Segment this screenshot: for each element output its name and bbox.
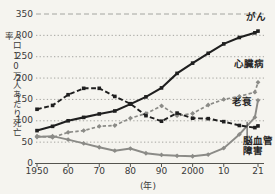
data-point-cerebrovascular-disease — [175, 111, 179, 115]
x-tick-label: 21 — [242, 167, 274, 176]
data-point-cerebrovascular-disease — [35, 107, 39, 111]
data-point-heart-disease — [221, 97, 226, 102]
x-tick-label: 10 — [208, 167, 240, 176]
data-point-cerebrovascular-disease — [253, 126, 257, 130]
data-point-cancer — [191, 61, 195, 65]
data-point-senility — [256, 98, 261, 103]
data-point-cerebrovascular-disease — [82, 87, 86, 91]
data-point-heart-disease — [81, 128, 86, 133]
x-axis-title: (年) — [132, 179, 164, 192]
series-label-senility: 老衰 — [232, 97, 252, 107]
y-tick-label: 150 — [6, 95, 33, 104]
data-point-senility — [175, 153, 180, 158]
data-point-senility — [128, 146, 133, 151]
data-point-heart-disease — [128, 116, 133, 121]
data-point-cancer — [113, 109, 117, 113]
data-point-heart-disease — [256, 80, 261, 85]
data-point-cancer — [35, 129, 39, 133]
death-rate-line-chart: 人口10万人あたり死亡率 (年) がん 心臓病 老衰 脳血管 障害 050100… — [0, 0, 275, 194]
data-point-cancer — [238, 36, 242, 40]
x-tick-label: 1950 — [21, 167, 53, 176]
data-point-cancer — [129, 102, 133, 106]
data-point-cancer — [222, 42, 226, 46]
data-point-senility — [190, 154, 195, 159]
data-point-cancer — [253, 31, 257, 35]
data-point-cerebrovascular-disease — [66, 93, 70, 97]
x-tick-label: 2000 — [177, 167, 209, 176]
y-tick-label: 200 — [6, 74, 33, 83]
data-point-senility — [81, 141, 86, 146]
data-point-cancer — [206, 51, 210, 55]
data-point-cancer — [66, 119, 70, 123]
data-point-cerebrovascular-disease — [144, 114, 148, 118]
data-point-cerebrovascular-disease — [97, 87, 101, 91]
data-point-cerebrovascular-disease — [206, 117, 210, 121]
data-point-cerebrovascular-disease — [51, 104, 55, 108]
data-point-cerebrovascular-disease — [238, 124, 242, 128]
series-label-heart-disease: 心臓病 — [234, 59, 264, 69]
data-point-senility — [66, 137, 71, 142]
y-tick-label: 50 — [6, 138, 33, 147]
y-axis-title: 人口10万人あたり死亡率 — [3, 32, 20, 144]
data-point-cerebrovascular-disease — [113, 95, 117, 99]
y-tick-label: 100 — [6, 116, 33, 125]
series-line-heart-disease — [37, 82, 258, 137]
data-point-cerebrovascular-disease — [160, 119, 164, 123]
data-point-senility — [159, 153, 164, 158]
x-tick-label: 80 — [114, 167, 146, 176]
series-label-cerebrovascular: 脳血管 障害 — [243, 136, 273, 157]
data-point-heart-disease — [190, 111, 195, 116]
data-point-heart-disease — [159, 103, 164, 108]
data-point-senility — [144, 151, 149, 156]
data-point-cancer — [160, 86, 164, 90]
data-point-cancer — [144, 95, 148, 99]
data-point-cerebrovascular-disease — [191, 116, 195, 120]
data-point-heart-disease — [252, 90, 257, 95]
x-tick-label: 90 — [146, 167, 178, 176]
data-point-cancer — [175, 72, 179, 76]
x-tick-label: 60 — [52, 167, 84, 176]
data-point-cancer — [82, 116, 86, 120]
y-tick-label: 350 — [6, 10, 33, 19]
data-point-heart-disease — [66, 130, 71, 135]
data-point-cancer — [51, 125, 55, 129]
data-point-senility — [97, 145, 102, 150]
series-label-cancer: がん — [246, 12, 266, 22]
y-tick-label: 250 — [6, 52, 33, 61]
data-point-cancer — [97, 112, 101, 116]
data-point-heart-disease — [97, 124, 102, 129]
data-point-senility — [112, 148, 117, 153]
y-tick-label: 300 — [6, 31, 33, 40]
data-point-cerebrovascular-disease — [256, 124, 260, 128]
data-point-cancer — [256, 29, 260, 33]
data-point-senility — [35, 135, 40, 140]
x-tick-label: 70 — [83, 167, 115, 176]
data-point-cerebrovascular-disease — [222, 120, 226, 124]
